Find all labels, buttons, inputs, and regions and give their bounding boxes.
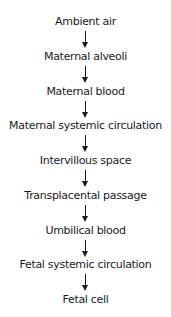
down-arrow-icon [0,204,171,223]
flowchart: Ambient air Maternal alveoli Maternal bl… [0,14,171,308]
node-maternal-alveoli: Maternal alveoli [0,49,171,65]
down-arrow-icon [0,134,171,153]
node-maternal-systemic-circulation: Maternal systemic circulation [0,118,171,134]
down-arrow-icon [0,65,171,84]
node-fetal-cell: Fetal cell [0,292,171,308]
node-fetal-systemic-circulation: Fetal systemic circulation [0,257,171,273]
down-arrow-icon [0,100,171,119]
node-umbilical-blood: Umbilical blood [0,223,171,239]
down-arrow-icon [0,30,171,49]
node-transplacental-passage: Transplacental passage [0,188,171,204]
node-intervillous-space: Intervillous space [0,153,171,169]
down-arrow-icon [0,169,171,188]
node-maternal-blood: Maternal blood [0,84,171,100]
node-ambient-air: Ambient air [0,14,171,30]
down-arrow-icon [0,239,171,258]
down-arrow-icon [0,273,171,292]
